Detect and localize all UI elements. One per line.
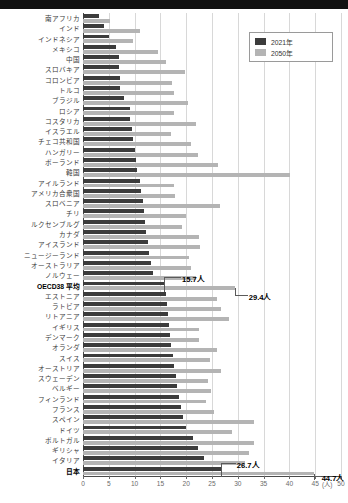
annotation-leader-line — [164, 277, 165, 292]
bar-2021 — [83, 333, 170, 337]
legend-swatch-2050 — [255, 49, 266, 56]
bar-row — [83, 136, 341, 146]
gridline — [341, 13, 342, 476]
bar-row — [83, 75, 341, 85]
bar-2021 — [83, 395, 179, 399]
x-tick-mark — [160, 476, 161, 479]
bar-row — [83, 445, 341, 455]
bar-2021 — [83, 45, 116, 49]
category-label: 日本 — [66, 466, 80, 478]
bar-2021 — [83, 14, 99, 18]
bar-2021 — [83, 323, 169, 327]
bar-row — [83, 208, 341, 218]
bar-2021 — [83, 374, 176, 378]
bar-row — [83, 219, 341, 229]
bar-2021 — [83, 302, 167, 306]
bar-2021 — [83, 446, 198, 450]
category-axis-labels: 南アフリカインドインドネシアメキシコ中国スロバキアコロンビアトルコブラジルロシア… — [0, 13, 83, 476]
value-annotation: 44.7人 — [322, 472, 345, 483]
bar-2050 — [83, 307, 221, 311]
bar-2050 — [83, 225, 182, 229]
bar-2021 — [83, 251, 149, 255]
annotation-leader-line — [235, 288, 236, 295]
bar-2021 — [83, 209, 144, 213]
bar-row — [83, 455, 341, 465]
bar-2021 — [83, 76, 120, 80]
bar-2021 — [83, 96, 124, 100]
top-black-band — [0, 0, 348, 9]
bar-2050 — [83, 451, 249, 455]
x-tick-label: 10 — [131, 480, 138, 487]
bar-2021 — [83, 415, 183, 419]
bar-2021 — [83, 426, 186, 430]
bar-2021 — [83, 405, 181, 409]
bar-2021 — [83, 384, 177, 388]
x-tick-mark — [238, 476, 239, 479]
bar-row — [83, 167, 341, 177]
annotation-leader-line — [221, 463, 222, 477]
x-tick-label: 40 — [286, 480, 293, 487]
bar-row — [83, 466, 341, 476]
bar-2021 — [83, 230, 146, 234]
bar-2050 — [83, 214, 186, 218]
bar-row — [83, 270, 341, 280]
bar-2050 — [83, 317, 229, 321]
annotation-leader-line — [314, 476, 321, 477]
bar-2021 — [83, 127, 132, 131]
x-tick-mark — [135, 476, 136, 479]
bar-2050 — [83, 50, 158, 54]
bar-2050 — [83, 184, 174, 188]
bar-2021 — [83, 456, 204, 460]
bar-row — [83, 373, 341, 383]
bar-2021 — [83, 24, 104, 28]
bar-row — [83, 281, 341, 291]
annotation-leader-line — [235, 295, 248, 296]
legend: 2021年 2050年 — [249, 32, 333, 62]
bar-2021 — [83, 107, 130, 111]
x-tick-label: 35 — [260, 480, 267, 487]
bar-2050 — [83, 142, 191, 146]
bar-row — [83, 342, 341, 352]
bar-2050 — [83, 441, 254, 445]
bar-2050 — [83, 29, 140, 33]
bar-row — [83, 291, 341, 301]
legend-swatch-2021 — [255, 38, 266, 45]
bar-2050 — [83, 204, 220, 208]
bar-2021 — [83, 364, 174, 368]
bar-series-group — [83, 13, 341, 476]
bar-2050 — [83, 245, 200, 249]
legend-label-2021: 2021年 — [271, 37, 293, 47]
bar-row — [83, 435, 341, 445]
bar-2050 — [83, 194, 175, 198]
bar-2050 — [83, 389, 211, 393]
bar-2050 — [83, 286, 235, 290]
annotation-leader-line — [164, 277, 181, 278]
bar-row — [83, 239, 341, 249]
bar-2021 — [83, 240, 148, 244]
chart-root: 南アフリカインドインドネシアメキシコ中国スロバキアコロンビアトルコブラジルロシア… — [0, 0, 348, 503]
bar-row — [83, 301, 341, 311]
x-tick-label: 0 — [81, 480, 85, 487]
bar-2050 — [83, 420, 254, 424]
bar-2021 — [83, 117, 130, 121]
bar-row — [83, 250, 341, 260]
bar-2050 — [83, 410, 214, 414]
bar-2050 — [83, 338, 199, 342]
bar-2050 — [83, 19, 110, 23]
bar-row — [83, 332, 341, 342]
bar-2050 — [83, 101, 188, 105]
x-tick-mark — [289, 476, 290, 479]
x-tick-mark — [83, 476, 84, 479]
x-tick-label: 25 — [208, 480, 215, 487]
value-annotation: 26.7人 — [237, 459, 260, 470]
bar-row — [83, 311, 341, 321]
annotation-leader-line — [221, 463, 236, 464]
bar-row — [83, 188, 341, 198]
bar-row — [83, 383, 341, 393]
bar-2050 — [83, 122, 196, 126]
bar-row — [83, 229, 341, 239]
bar-2021 — [83, 199, 143, 203]
bar-row — [83, 178, 341, 188]
x-tick-mark — [109, 476, 110, 479]
bar-2050 — [83, 328, 199, 332]
